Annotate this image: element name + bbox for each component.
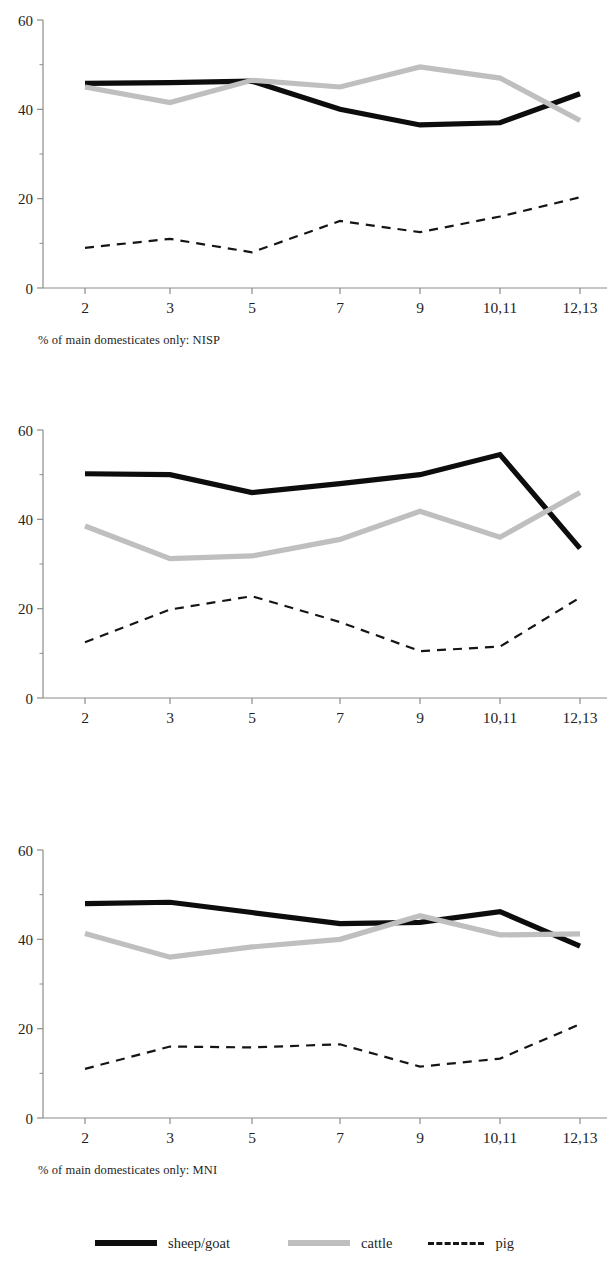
legend-swatch-pig-icon (428, 1236, 484, 1250)
series-line-pig (85, 596, 580, 651)
svg-text:0: 0 (26, 691, 34, 707)
svg-text:5: 5 (248, 709, 256, 726)
series-line-cattle (85, 67, 580, 121)
legend-item-cattle: cattle (288, 1235, 392, 1252)
legend-item-pig: pig (428, 1235, 514, 1252)
svg-text:5: 5 (248, 1129, 256, 1146)
svg-text:40: 40 (18, 512, 33, 528)
svg-text:10,11: 10,11 (483, 709, 517, 726)
svg-text:7: 7 (336, 299, 344, 316)
chart-mni: 02040602357910,1112,13 % of main domesti… (0, 410, 609, 810)
svg-text:2: 2 (81, 299, 89, 316)
svg-text:2: 2 (81, 1129, 89, 1146)
svg-text:12,13: 12,13 (563, 1129, 598, 1146)
svg-text:10,11: 10,11 (483, 1129, 517, 1146)
figure-page: 02040602357910,1112,13 % of main domesti… (0, 0, 609, 1263)
svg-text:5: 5 (248, 299, 256, 316)
svg-text:60: 60 (18, 843, 33, 859)
svg-text:60: 60 (18, 13, 33, 29)
svg-text:20: 20 (18, 1021, 33, 1037)
svg-text:0: 0 (26, 1111, 34, 1127)
svg-text:12,13: 12,13 (563, 709, 598, 726)
svg-text:40: 40 (18, 102, 33, 118)
series-line-cattle (85, 493, 580, 559)
svg-text:3: 3 (166, 299, 174, 316)
svg-text:12,13: 12,13 (563, 299, 598, 316)
svg-text:0: 0 (26, 281, 34, 297)
legend-label-cattle: cattle (361, 1235, 392, 1252)
svg-text:10,11: 10,11 (483, 299, 517, 316)
svg-text:20: 20 (18, 601, 33, 617)
chart-mni-plot: 02040602357910,1112,13 (0, 410, 609, 740)
svg-text:2: 2 (81, 709, 89, 726)
chart-nisp: 02040602357910,1112,13 % of main domesti… (0, 0, 609, 400)
chart-mean-plot: 02040602357910,1112,13 (0, 830, 609, 1160)
svg-text:7: 7 (336, 1129, 344, 1146)
svg-text:40: 40 (18, 932, 33, 948)
legend-swatch-cattle-icon (288, 1236, 350, 1250)
chart-nisp-caption: % of main domesticates only: NISP (38, 333, 220, 348)
svg-text:9: 9 (416, 1129, 424, 1146)
series-line-pig (85, 1024, 580, 1069)
svg-text:3: 3 (166, 1129, 174, 1146)
svg-text:7: 7 (336, 709, 344, 726)
chart-mean: 02040602357910,1112,13 Mean of MNI & NIS… (0, 830, 609, 1190)
svg-text:20: 20 (18, 191, 33, 207)
svg-text:3: 3 (166, 709, 174, 726)
series-line-pig (85, 197, 580, 252)
legend-swatch-sheep-goat-icon (95, 1236, 157, 1250)
figure-legend: sheep/goat cattle pig (0, 1228, 609, 1258)
chart-nisp-plot: 02040602357910,1112,13 (0, 0, 609, 330)
svg-text:9: 9 (416, 299, 424, 316)
legend-label-pig: pig (495, 1235, 514, 1252)
svg-text:60: 60 (18, 423, 33, 439)
svg-text:9: 9 (416, 709, 424, 726)
legend-item-sheep-goat: sheep/goat (95, 1235, 230, 1252)
legend-label-sheep-goat: sheep/goat (168, 1235, 230, 1252)
